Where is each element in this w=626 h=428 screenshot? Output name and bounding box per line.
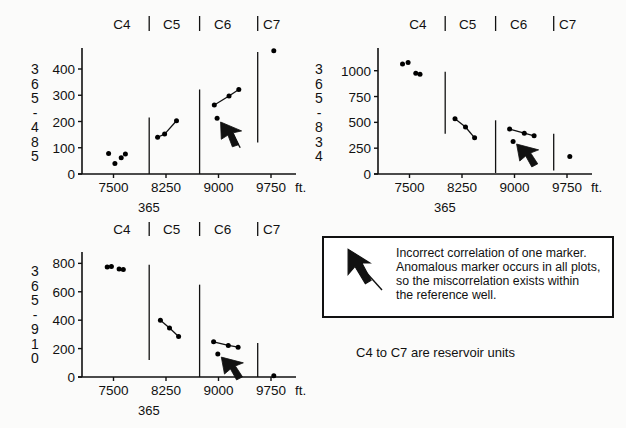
data-point-marker — [406, 60, 411, 65]
data-point-marker — [507, 127, 512, 132]
scatter-plot-365-910: 02004006008007500825090009750ft.C4C5C6C7 — [26, 222, 311, 422]
x-tick-label: 9000 — [203, 383, 233, 398]
x-tick-label: 8250 — [447, 180, 477, 195]
data-point-marker — [176, 334, 181, 339]
data-point-marker — [212, 102, 217, 107]
data-point-marker — [109, 264, 114, 269]
data-point-marker — [226, 343, 231, 348]
data-point-marker — [167, 325, 172, 330]
y-tick-label: 750 — [348, 90, 371, 105]
reservoir-unit-label-c5: C5 — [459, 17, 476, 32]
data-point-marker — [112, 161, 117, 166]
y-axis-title-plot3: 3 6 5 - 9 1 0 — [26, 264, 44, 366]
x-tick-label: 8250 — [151, 383, 181, 398]
data-point-marker — [211, 339, 216, 344]
data-point-marker — [413, 71, 418, 76]
data-point-marker — [271, 373, 276, 378]
y-tick-label: 0 — [67, 167, 75, 182]
y-tick-label: 250 — [348, 141, 371, 156]
data-point-marker — [158, 318, 163, 323]
reservoir-unit-label-c6: C6 — [214, 17, 231, 32]
y-tick-label: 400 — [52, 62, 75, 77]
x-tick-label: 7500 — [98, 180, 128, 195]
data-point-marker — [453, 116, 458, 121]
x-tick-label: 9750 — [552, 180, 582, 195]
plot-panel-365-485: 3 6 5 - 4 8 5 01002003004007500825090009… — [26, 14, 311, 219]
y-tick-label: 300 — [52, 88, 75, 103]
data-point-marker — [532, 133, 537, 138]
reservoir-unit-label-c6: C6 — [510, 17, 527, 32]
reservoir-unit-label-c6: C6 — [214, 222, 231, 237]
x-axis-unit-label: ft. — [591, 180, 602, 195]
data-point-marker — [174, 118, 179, 123]
data-point-marker — [418, 72, 423, 77]
x-tick-label: 8250 — [151, 180, 181, 195]
note-line-2: Anomalous marker occurs in all plots, — [396, 260, 600, 275]
reservoir-unit-label-c7: C7 — [263, 17, 280, 32]
reservoir-unit-label-c7: C7 — [263, 222, 280, 237]
data-point-marker — [271, 48, 276, 53]
data-point-marker — [236, 87, 241, 92]
anomaly-arrow-icon — [218, 122, 243, 148]
data-point-marker — [400, 62, 405, 67]
y-tick-label: 200 — [52, 115, 75, 130]
x-axis-title-plot1: 365 — [138, 200, 160, 215]
data-point-marker — [522, 131, 527, 136]
plot-panel-365-834: 3 6 5 - 8 3 4 02505007501000750082509000… — [306, 14, 606, 219]
note-line-1: Incorrect correlation of one marker. — [396, 246, 587, 261]
data-point-marker — [215, 116, 220, 121]
annotation-note-box: Incorrect correlation of one marker. Ano… — [322, 236, 614, 318]
data-point-marker — [227, 94, 232, 99]
data-point-marker — [463, 125, 468, 130]
reservoir-unit-label-c4: C4 — [113, 17, 131, 32]
data-point-marker — [511, 139, 516, 144]
x-tick-label: 7500 — [98, 383, 128, 398]
x-axis-unit-label: ft. — [295, 180, 306, 195]
y-tick-label: 0 — [363, 167, 371, 182]
y-tick-label: 800 — [52, 256, 75, 271]
data-point-marker — [215, 351, 220, 356]
y-tick-label: 500 — [348, 115, 371, 130]
data-point-marker — [236, 345, 241, 350]
x-axis-title-plot2: 365 — [434, 200, 456, 215]
reservoir-unit-label-c7: C7 — [559, 17, 576, 32]
note-line-4: the reference well. — [396, 288, 496, 303]
plot-panel-365-910: 3 6 5 - 9 1 0 02004006008007500825090009… — [26, 222, 311, 422]
x-tick-label: 9750 — [256, 383, 286, 398]
y-axis-title-plot2: 3 6 5 - 8 3 4 — [310, 62, 328, 164]
x-tick-label: 9750 — [256, 180, 286, 195]
anomaly-arrow-icon — [517, 144, 539, 167]
data-point-marker — [155, 135, 160, 140]
scatter-plot-365-485: 01002003004007500825090009750ft.C4C5C6C7 — [26, 14, 311, 219]
data-point-marker — [121, 267, 126, 272]
x-axis-title-plot3: 365 — [138, 403, 160, 418]
reservoir-unit-label-c4: C4 — [113, 222, 131, 237]
y-tick-label: 200 — [52, 342, 75, 357]
reservoir-unit-label-c5: C5 — [163, 222, 180, 237]
figure-caption: C4 to C7 are reservoir units — [356, 345, 515, 360]
scatter-plot-365-834: 025050075010007500825090009750ft.C4C5C6C… — [306, 14, 606, 219]
data-point-marker — [123, 152, 128, 157]
data-point-marker — [162, 132, 167, 137]
x-tick-label: 9000 — [499, 180, 529, 195]
note-line-3: so the miscorrelation exists within — [396, 274, 579, 289]
y-tick-label: 1000 — [341, 64, 371, 79]
data-point-marker — [119, 155, 124, 160]
x-axis-unit-label: ft. — [295, 383, 306, 398]
reservoir-unit-label-c5: C5 — [163, 17, 180, 32]
data-point-marker — [472, 135, 477, 140]
y-tick-label: 100 — [52, 141, 75, 156]
data-point-marker — [106, 151, 111, 156]
reservoir-unit-label-c4: C4 — [409, 17, 427, 32]
x-tick-label: 7500 — [394, 180, 424, 195]
y-tick-label: 600 — [52, 285, 75, 300]
data-point-marker — [567, 154, 572, 159]
y-tick-label: 400 — [52, 313, 75, 328]
y-axis-title-plot1: 3 6 5 - 4 8 5 — [26, 62, 44, 164]
x-tick-label: 9000 — [203, 180, 233, 195]
y-tick-label: 0 — [67, 370, 75, 385]
